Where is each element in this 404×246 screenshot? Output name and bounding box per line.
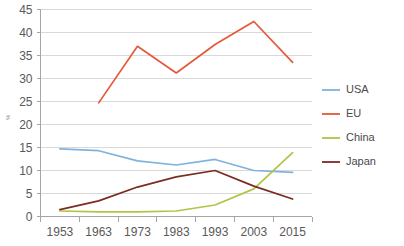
x-tick-label: 2003: [240, 225, 267, 239]
x-tick-label: 1963: [85, 225, 112, 239]
y-tick-label: 30: [19, 72, 33, 86]
line-chart: 051015202530354045 195319631973198319932…: [0, 0, 404, 246]
y-axis: [37, 9, 41, 217]
legend-label-japan[interactable]: Japan: [346, 155, 376, 167]
x-tick-label: 1993: [202, 225, 229, 239]
series-line-japan: [60, 171, 293, 210]
y-axis-title: %: [5, 114, 11, 120]
series-line-eu: [99, 21, 293, 102]
legend-label-eu[interactable]: EU: [346, 107, 361, 119]
x-tick-label: 1973: [124, 225, 151, 239]
x-tick-labels: 1953196319731983199320032015: [47, 225, 307, 239]
y-tick-labels: 051015202530354045: [19, 3, 33, 224]
series-line-usa: [60, 149, 293, 172]
legend-label-china[interactable]: China: [346, 131, 376, 143]
legend-label-usa[interactable]: USA: [346, 83, 369, 95]
data-series: [60, 21, 293, 211]
y-tick-label: 35: [19, 49, 33, 63]
x-axis: [41, 217, 313, 222]
y-tick-label: 15: [19, 141, 33, 155]
y-tick-label: 20: [19, 118, 33, 132]
x-tick-label: 1953: [47, 225, 74, 239]
chart-legend: USAEUChinaJapan: [322, 83, 376, 167]
y-tick-label: 10: [19, 164, 33, 178]
chart-canvas: 051015202530354045 195319631973198319932…: [0, 0, 404, 246]
series-line-china: [60, 153, 293, 212]
y-tick-label: 40: [19, 26, 33, 40]
x-tick-label: 1983: [163, 225, 190, 239]
x-tick-marks: [41, 217, 313, 222]
y-tick-label: 45: [19, 3, 33, 17]
y-tick-label: 25: [19, 95, 33, 109]
y-tick-label: 5: [26, 187, 33, 201]
x-tick-label: 2015: [279, 225, 306, 239]
y-tick-label: 0: [26, 210, 33, 224]
